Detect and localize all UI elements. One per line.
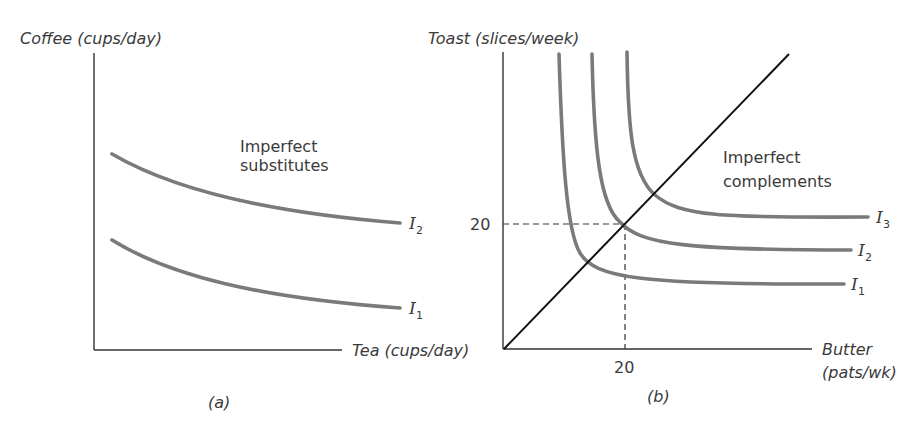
svg-text:I: I: [408, 213, 416, 233]
panel-b-caption: (b): [647, 387, 670, 406]
panel-b-expansion-ray: [504, 54, 789, 349]
panel-b: Toast (slices/week) Butter (pats/wk) Imp…: [428, 29, 897, 406]
svg-text:2: 2: [865, 251, 872, 264]
panel-b-annotation-line1: Imperfect: [723, 148, 800, 167]
svg-text:I: I: [408, 298, 416, 318]
panel-b-x-axis-title-line2: (pats/wk): [822, 363, 897, 382]
panel-a-curve-i1: [112, 240, 400, 308]
panel-a-label-i1: I 1: [408, 298, 423, 322]
panel-a-caption: (a): [208, 393, 230, 412]
svg-text:I: I: [850, 274, 858, 294]
svg-text:2: 2: [416, 224, 423, 237]
panel-b-curve-i2: [592, 54, 851, 250]
svg-text:1: 1: [858, 285, 865, 298]
panel-a-label-i2: I 2: [408, 213, 423, 237]
svg-text:I: I: [875, 207, 883, 227]
panel-b-curve-i3: [627, 52, 868, 217]
panel-a-x-axis-title: Tea (cups/day): [352, 341, 469, 360]
panel-a-y-axis-title: Coffee (cups/day): [20, 29, 162, 48]
diagram-canvas: Coffee (cups/day) Tea (cups/day) Imperfe…: [0, 0, 924, 430]
panel-b-y-axis-title: Toast (slices/week): [428, 29, 579, 48]
svg-text:I: I: [857, 240, 865, 260]
panel-b-annotation-line2: complements: [723, 172, 832, 191]
panel-a: Coffee (cups/day) Tea (cups/day) Imperfe…: [20, 29, 469, 412]
panel-b-x-axis-title-line1: Butter: [822, 340, 874, 359]
panel-a-annotation-line1: Imperfect: [240, 137, 317, 156]
panel-b-y-tick-20: 20: [470, 215, 490, 234]
panel-b-x-tick-20: 20: [614, 358, 634, 377]
panel-b-label-i2: I 2: [857, 240, 872, 264]
panel-b-label-i3: I 3: [875, 207, 890, 231]
panel-a-annotation-line2: substitutes: [240, 156, 329, 175]
svg-text:1: 1: [416, 309, 423, 322]
panel-b-label-i1: I 1: [850, 274, 865, 298]
svg-text:3: 3: [883, 218, 890, 231]
